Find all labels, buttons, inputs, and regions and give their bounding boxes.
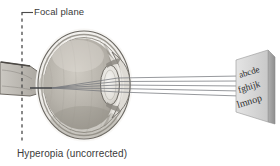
chart-text-group: abcde fghijk lmnop xyxy=(235,64,263,110)
focal-plane-label: Focal plane xyxy=(34,6,84,17)
figure-caption: Hyperopia (uncorrected) xyxy=(17,148,127,159)
eye-chart-screen: abcde fghijk lmnop xyxy=(235,50,275,124)
hyperopia-diagram: abcde fghijk lmnop xyxy=(0,0,280,166)
screen-side xyxy=(268,50,275,124)
